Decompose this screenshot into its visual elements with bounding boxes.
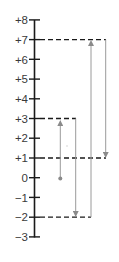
dashed-guides [40,40,106,218]
tick-label: +1 [15,152,28,164]
tick-label: +4 [15,93,29,105]
tick-label: +8 [15,14,28,26]
tick-label: −3 [15,231,28,243]
stray-speck [66,145,68,147]
tick-label: −1 [15,192,28,204]
tick-label: +2 [15,132,28,144]
tick-label: 0 [22,172,28,184]
axis-labels: +8 +7 +6 +5 +4 +3 +2 +1 0 −1 −2 −3 [15,14,29,243]
tick-label: +3 [15,113,28,125]
tick-label: −2 [15,211,28,223]
tick-label: +6 [15,54,28,66]
tick-label: +7 [15,34,28,46]
move-arrows [60,40,105,218]
tick-label: +5 [15,73,28,85]
number-line-diagram: +8 +7 +6 +5 +4 +3 +2 +1 0 −1 −2 −3 [0,0,119,262]
start-point-dot [58,177,62,181]
